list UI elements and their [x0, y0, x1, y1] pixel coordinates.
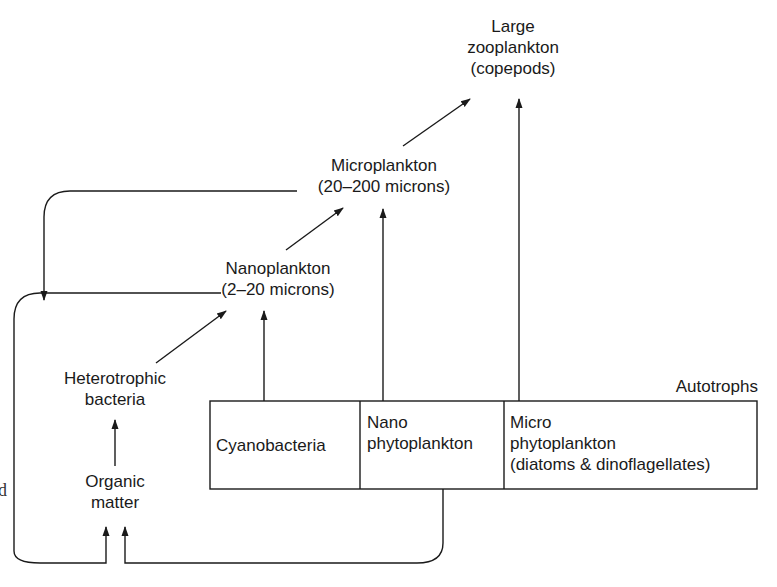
cell-line: phytoplankton: [367, 433, 473, 454]
cell-line: Nano: [367, 412, 473, 433]
cropped-text-fragment: d: [0, 480, 7, 501]
autotroph-cell-micro-phytoplankton: Micro phytoplankton (diatoms & dinoflage…: [510, 412, 710, 475]
node-line: (20–200 microns): [296, 176, 472, 197]
node-nanoplankton: Nanoplankton (2–20 microns): [219, 258, 337, 300]
arrow-bacteria-to-nano: [156, 311, 226, 363]
autotrophs-title: Autotrophs: [658, 376, 758, 397]
cell-line: Micro: [510, 412, 710, 433]
node-line: (copepods): [458, 58, 568, 79]
node-line: zooplankton: [458, 37, 568, 58]
node-line: Heterotrophic: [50, 368, 180, 389]
autotroph-cell-cyanobacteria: Cyanobacteria: [216, 435, 326, 456]
node-microplankton: Microplankton (20–200 microns): [296, 155, 472, 197]
arrow-micro-to-large: [403, 99, 470, 146]
node-line: Nanoplankton: [219, 258, 337, 279]
cell-line: (diatoms & dinoflagellates): [510, 454, 710, 475]
node-large-zooplankton: Large zooplankton (copepods): [458, 16, 568, 79]
node-organic-matter: Organic matter: [70, 471, 160, 513]
cell-line: phytoplankton: [510, 433, 710, 454]
node-line: matter: [70, 492, 160, 513]
node-line: Microplankton: [296, 155, 472, 176]
cell-line: Cyanobacteria: [216, 435, 326, 456]
autotroph-cell-nano-phytoplankton: Nano phytoplankton: [367, 412, 473, 454]
node-heterotrophic-bacteria: Heterotrophic bacteria: [50, 368, 180, 410]
arrow-nano-to-micro: [286, 208, 343, 250]
loop-phyto-to-organic: [125, 489, 443, 563]
loop-nano-to-organic: [14, 293, 221, 563]
node-line: bacteria: [50, 389, 180, 410]
node-line: Large: [458, 16, 568, 37]
node-line: (2–20 microns): [219, 279, 337, 300]
node-line: Organic: [70, 471, 160, 492]
